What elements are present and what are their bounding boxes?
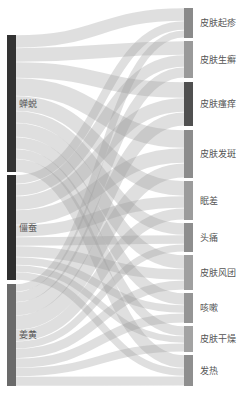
target-node-label: 皮肤起疹 (200, 17, 236, 28)
target-node-label: 咳嗽 (200, 302, 218, 313)
source-node (7, 35, 16, 172)
source-node-label: 蝉蜕 (19, 98, 37, 109)
source-node (7, 284, 16, 386)
target-node-label: 发热 (200, 365, 218, 376)
target-node (184, 355, 193, 386)
target-node (184, 181, 193, 220)
target-node-label: 皮肤发斑 (200, 148, 236, 159)
target-node (184, 130, 193, 178)
target-node-label: 皮肤干燥 (200, 333, 236, 344)
target-node (184, 41, 193, 78)
source-node-label: 姜黄 (19, 329, 37, 340)
target-node-label: 皮肤瘙痒 (200, 98, 236, 109)
target-node-label: 皮肤风团 (200, 267, 236, 278)
target-node-label: 眠差 (200, 195, 218, 206)
source-node (7, 175, 16, 280)
target-node (184, 223, 193, 252)
source-node-label: 僵蚕 (19, 222, 37, 233)
target-node-label: 头痛 (200, 232, 218, 243)
sankey-diagram: 蝉蜕僵蚕姜黄皮肤起疹皮肤生癣皮肤瘙痒皮肤发斑眠差头痛皮肤风团咳嗽皮肤干燥发热 (0, 0, 246, 396)
sankey-link (16, 48, 184, 55)
target-node-label: 皮肤生癣 (200, 54, 236, 65)
target-node (184, 82, 193, 126)
target-node (184, 8, 193, 38)
target-node (184, 326, 193, 352)
target-node (184, 293, 193, 323)
target-node (184, 255, 193, 290)
sankey-links (16, 15, 184, 382)
